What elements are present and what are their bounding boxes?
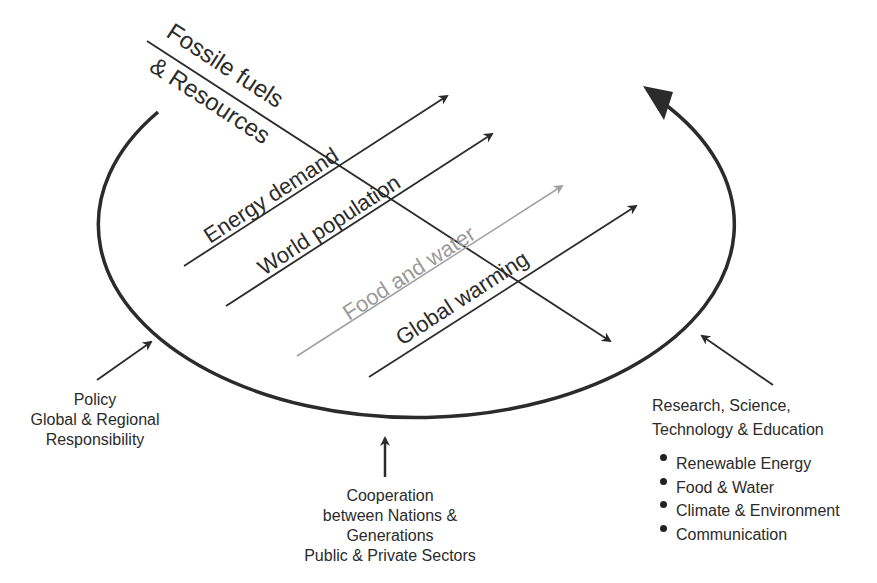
topic-label: Communication — [676, 526, 787, 543]
policy-line-3: Responsibility — [10, 430, 180, 450]
topic-label: Renewable Energy — [676, 455, 811, 472]
bullet-icon — [660, 478, 667, 485]
list-item: Climate & Environment — [660, 499, 840, 523]
policy-line-1: Policy — [10, 390, 180, 410]
cooperation-line-2: between Nations & — [280, 506, 500, 526]
policy-caption: Policy Global & Regional Responsibility — [10, 390, 180, 450]
cooperation-caption: Cooperation between Nations & Generation… — [280, 486, 500, 566]
list-item: Communication — [660, 523, 840, 547]
topic-label: Climate & Environment — [676, 502, 840, 519]
research-arrow — [702, 336, 773, 385]
cooperation-line-3: Generations — [280, 526, 500, 546]
bullet-icon — [660, 525, 667, 532]
global-warming-arrow — [369, 206, 636, 377]
research-caption: Research, Science, Technology & Educatio… — [652, 394, 824, 442]
list-item: Renewable Energy — [660, 452, 840, 476]
topic-label: Food & Water — [676, 479, 774, 496]
cooperation-line-1: Cooperation — [280, 486, 500, 506]
cycle-arrowhead-icon — [643, 86, 673, 120]
bullet-icon — [660, 454, 667, 461]
research-topics-list: Renewable Energy Food & Water Climate & … — [660, 452, 840, 546]
cooperation-line-4: Public & Private Sectors — [280, 546, 500, 566]
policy-line-2: Global & Regional — [10, 410, 180, 430]
policy-arrow — [97, 342, 151, 380]
research-line-2: Technology & Education — [652, 418, 824, 442]
bullet-icon — [660, 501, 667, 508]
list-item: Food & Water — [660, 476, 840, 500]
research-line-1: Research, Science, — [652, 394, 824, 418]
